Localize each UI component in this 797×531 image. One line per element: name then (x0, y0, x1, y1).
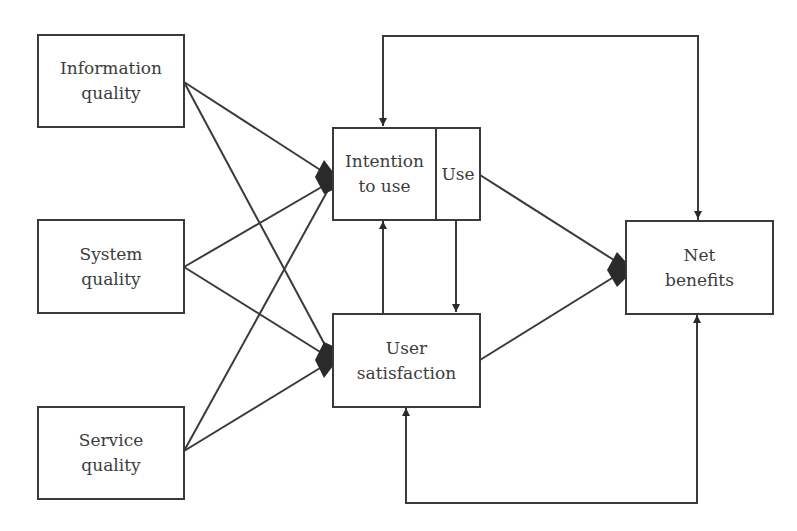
node-label-line: System (80, 242, 143, 267)
node-intention-to-use: Intention to use (334, 129, 437, 219)
node-service-quality: Service quality (37, 406, 185, 500)
edge-use-to-net-benefits (480, 175, 617, 262)
node-label-line: Net (665, 243, 734, 268)
node-label-line: quality (60, 81, 162, 106)
edge-info-to-satisfaction (184, 82, 325, 345)
node-label-line: quality (80, 267, 143, 292)
node-system-quality: System quality (37, 219, 185, 314)
node-label-line: Intention (345, 149, 424, 174)
node-label-line: to use (358, 174, 410, 199)
node-label-line: satisfaction (357, 361, 456, 386)
edge-service-to-satisfaction (184, 365, 325, 451)
node-net-benefits: Net benefits (625, 220, 774, 315)
node-label-line: Service (79, 428, 143, 453)
node-label-line: Use (441, 162, 474, 187)
node-label-line: Information (60, 56, 162, 81)
diamond-junction-satisfaction (315, 342, 333, 378)
edge-info-to-intention (184, 82, 325, 173)
node-label-line: User (357, 336, 456, 361)
node-intention-use-group: Intention to use Use (332, 127, 481, 221)
edge-system-to-satisfaction (184, 267, 325, 355)
node-information-quality: Information quality (37, 34, 185, 128)
edge-service-to-intention (184, 190, 328, 451)
edge-system-to-intention (184, 185, 325, 267)
node-use: Use (437, 129, 479, 219)
information-systems-success-model-diagram: Information quality System quality Servi… (0, 0, 797, 531)
node-user-satisfaction: User satisfaction (332, 313, 481, 408)
node-label-line: quality (79, 453, 143, 478)
edge-satisfaction-to-net-benefits (480, 275, 617, 360)
node-label-line: benefits (665, 268, 734, 293)
